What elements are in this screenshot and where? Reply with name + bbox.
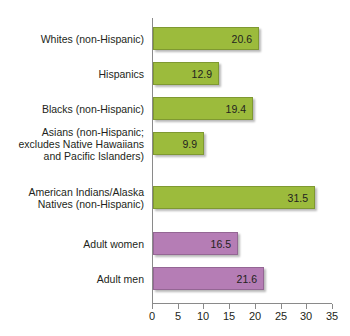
category-label-line: Asians (non-Hispanic; <box>0 126 144 138</box>
category-label-line: American Indians/Alaska <box>0 186 144 198</box>
x-axis-tick <box>255 304 256 309</box>
x-axis-tick <box>203 304 204 309</box>
category-label-line: Blacks (non-Hispanic) <box>0 103 144 115</box>
bar-value-label: 16.5 <box>211 233 231 256</box>
x-axis-tick <box>178 304 179 309</box>
category-label: Blacks (non-Hispanic) <box>0 103 144 115</box>
bar-value-label: 19.4 <box>226 98 246 121</box>
category-label-line: Adult women <box>0 238 144 250</box>
category-label-line: Hispanics <box>0 68 144 80</box>
bar-value-label: 12.9 <box>192 63 212 86</box>
bar-value-label: 31.5 <box>288 187 308 210</box>
bar-value-label: 9.9 <box>182 133 197 156</box>
bar-value-label: 21.6 <box>237 268 257 291</box>
category-label: Hispanics <box>0 68 144 80</box>
x-axis-tick <box>332 304 333 309</box>
x-axis-tick <box>229 304 230 309</box>
category-label-line: and Pacific Islanders) <box>0 150 144 162</box>
category-label-line: Whites (non-Hispanic) <box>0 33 144 45</box>
x-axis-tick-label: 35 <box>317 310 347 323</box>
category-label-line: Adult men <box>0 273 144 285</box>
bar: 12.9 <box>153 62 219 85</box>
category-label-line: Natives (non-Hispanic) <box>0 198 144 210</box>
bar: 9.9 <box>153 132 204 155</box>
category-label: Asians (non-Hispanic;excludes Native Haw… <box>0 126 144 162</box>
bar: 21.6 <box>153 267 264 290</box>
category-label: Whites (non-Hispanic) <box>0 33 144 45</box>
bar-value-label: 20.6 <box>232 28 252 51</box>
bar-chart: Whites (non-Hispanic)20.6Hispanics12.9Bl… <box>0 0 350 336</box>
x-axis-tick <box>281 304 282 309</box>
category-label: American Indians/AlaskaNatives (non-Hisp… <box>0 186 144 210</box>
bar: 20.6 <box>153 27 259 50</box>
category-label: Adult men <box>0 273 144 285</box>
bar: 16.5 <box>153 232 238 255</box>
x-axis-tick <box>306 304 307 309</box>
category-label-line: excludes Native Hawaiians <box>0 138 144 150</box>
x-axis-tick <box>152 304 153 309</box>
y-axis-line <box>152 18 153 304</box>
x-axis-line <box>152 303 332 304</box>
category-label: Adult women <box>0 238 144 250</box>
bar: 19.4 <box>153 97 253 120</box>
bar: 31.5 <box>153 186 315 209</box>
